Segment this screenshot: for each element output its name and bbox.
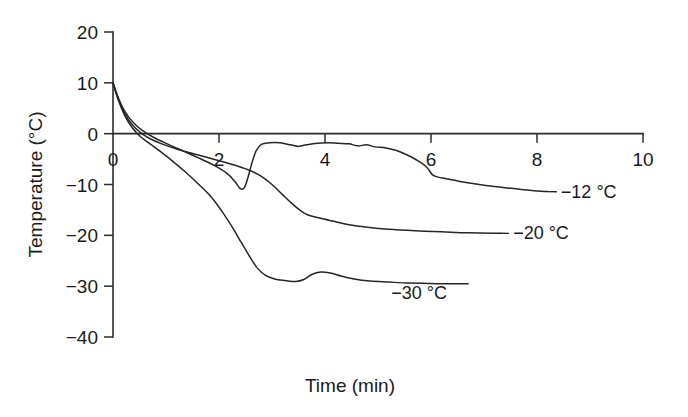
series-line-2 — [113, 83, 500, 233]
y-axis-ticks — [104, 32, 113, 337]
x-tick-label: 0 — [108, 149, 119, 170]
x-axis-tick-labels: 0246810 — [108, 149, 654, 170]
series-line-3 — [113, 83, 468, 284]
y-tick-label: −10 — [66, 175, 98, 196]
series-label-2: −20 °C — [513, 223, 569, 243]
y-axis-title: Temperature (°C) — [25, 112, 46, 258]
series-labels-group: −12 °C−20 °C−30 °C — [391, 182, 616, 304]
y-tick-label: 10 — [77, 73, 98, 94]
cooling-curve-chart: 20100−10−20−30−40 0246810 −12 °C−20 °C−3… — [0, 0, 688, 417]
x-axis-title: Time (min) — [305, 375, 395, 396]
x-tick-label: 4 — [320, 149, 331, 170]
y-tick-label: −40 — [66, 327, 98, 348]
series-label-3: −30 °C — [391, 283, 447, 303]
x-tick-label: 8 — [532, 149, 543, 170]
x-tick-label: 6 — [426, 149, 437, 170]
y-tick-label: 20 — [77, 22, 98, 43]
y-tick-label: −30 — [66, 276, 98, 297]
chart-figure: 20100−10−20−30−40 0246810 −12 °C−20 °C−3… — [0, 0, 688, 417]
series-label-1: −12 °C — [561, 182, 617, 202]
y-tick-label: −20 — [66, 225, 98, 246]
x-tick-label: 10 — [632, 149, 653, 170]
series-curves — [113, 83, 548, 284]
y-tick-label: 0 — [87, 124, 98, 145]
series-line-1 — [113, 83, 548, 192]
y-axis-tick-labels: 20100−10−20−30−40 — [66, 22, 98, 348]
x-axis-ticks — [219, 134, 643, 143]
